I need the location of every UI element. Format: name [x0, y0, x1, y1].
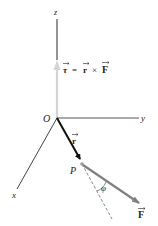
force-vector-f	[83, 165, 139, 203]
x-axis-label: x	[11, 190, 16, 200]
angle-phi-label: φ	[101, 183, 106, 193]
equation-f: F	[102, 64, 108, 75]
z-axis-label: z	[53, 8, 58, 17]
x-axis	[17, 118, 57, 189]
point-p-marker	[80, 162, 84, 166]
position-vector-r	[57, 118, 80, 159]
equation-equals: =	[72, 65, 77, 75]
r-extension-dashed-line	[82, 164, 112, 219]
torque-diagram: z y x O P r F φ τ = r × F	[0, 0, 158, 226]
r-vector-label: r	[72, 136, 76, 146]
y-axis-label: y	[140, 113, 145, 123]
torque-equation: τ = r × F	[63, 61, 109, 75]
equation-r: r	[83, 65, 87, 75]
f-vector-label: F	[138, 209, 144, 220]
origin-label: O	[43, 113, 50, 124]
point-p-label: P	[69, 165, 76, 176]
equation-tau: τ	[63, 65, 68, 75]
torque-arrowhead-icon	[54, 60, 61, 70]
equation-times: ×	[92, 65, 97, 75]
